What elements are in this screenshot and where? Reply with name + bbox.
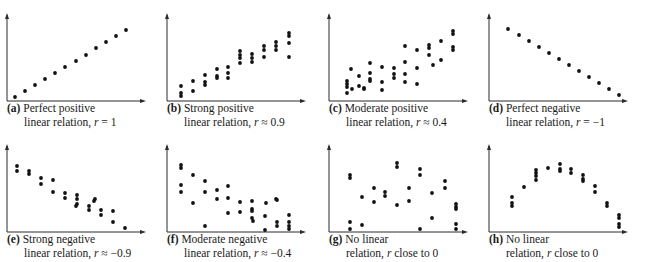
data-point xyxy=(567,63,571,67)
data-point xyxy=(203,190,207,194)
data-point xyxy=(427,53,431,57)
data-point xyxy=(593,184,597,188)
data-point xyxy=(569,171,573,175)
data-point xyxy=(593,190,597,194)
data-point xyxy=(357,84,361,88)
data-point xyxy=(368,79,372,83)
data-point xyxy=(395,203,399,207)
axes xyxy=(7,15,143,101)
data-point xyxy=(251,219,255,223)
data-point xyxy=(191,89,195,93)
data-point xyxy=(250,199,254,203)
data-point xyxy=(558,162,562,166)
scatter-plot xyxy=(322,131,482,235)
data-point xyxy=(383,194,387,198)
data-point xyxy=(275,220,279,224)
caption-line-1: Moderate negative xyxy=(181,233,267,245)
data-point xyxy=(350,87,354,91)
data-point xyxy=(275,198,279,202)
panel-caption: (d) Perfect negativelinear relation, r =… xyxy=(489,102,605,129)
y-axis-arrow-icon xyxy=(327,144,331,150)
data-point xyxy=(454,207,458,211)
data-point xyxy=(179,84,183,88)
data-point xyxy=(203,179,207,183)
y-axis-arrow-icon xyxy=(5,13,9,19)
data-point xyxy=(587,75,591,79)
data-point xyxy=(238,56,242,60)
panel-label: (d) xyxy=(489,102,503,114)
data-point xyxy=(287,220,291,224)
panel-f: (f) Moderate negativelinear relation, r … xyxy=(160,131,320,262)
caption-line-1: Perfect positive xyxy=(23,102,95,114)
data-point xyxy=(238,61,242,65)
data-point xyxy=(226,65,230,69)
data-point xyxy=(287,227,291,231)
data-point xyxy=(104,40,108,44)
data-point xyxy=(275,224,279,228)
data-point xyxy=(250,52,254,56)
data-point xyxy=(250,209,254,213)
axes xyxy=(329,15,465,101)
axes xyxy=(167,146,303,232)
data-point xyxy=(39,176,43,180)
caption-line-2: relation, r close to 0 xyxy=(329,247,438,261)
data-point xyxy=(15,164,19,168)
data-point xyxy=(380,80,384,84)
panel-caption: (g) No linearrelation, r close to 0 xyxy=(329,233,438,260)
data-point xyxy=(124,28,128,32)
r-value: close to 0 xyxy=(551,247,598,259)
data-point xyxy=(74,59,78,63)
data-point xyxy=(215,76,219,80)
caption-text: linear relation, xyxy=(184,116,254,128)
data-point xyxy=(191,79,195,83)
y-axis-arrow-icon xyxy=(165,13,169,19)
data-point xyxy=(380,65,384,69)
panel-label: (f) xyxy=(167,233,179,245)
caption-line-2: linear relation, r ≈ 0.9 xyxy=(167,116,285,130)
x-axis-arrow-icon xyxy=(622,99,628,103)
caption-text: linear relation, xyxy=(184,247,254,259)
r-value: close to 0 xyxy=(391,247,438,259)
data-point xyxy=(87,204,91,208)
data-point xyxy=(407,199,411,203)
data-point xyxy=(263,214,267,218)
scatter-plot xyxy=(482,131,642,235)
x-axis-arrow-icon xyxy=(462,230,468,234)
panel-caption: (b) Strong positivelinear relation, r ≈ … xyxy=(167,102,285,129)
panel-caption: (a) Perfect positivelinear relation, r =… xyxy=(7,102,116,129)
data-point xyxy=(75,197,79,201)
data-point xyxy=(607,87,611,91)
data-point xyxy=(94,46,98,50)
caption-line-1: No linear xyxy=(506,233,549,245)
x-axis-arrow-icon xyxy=(300,230,306,234)
data-point xyxy=(439,39,443,43)
data-point xyxy=(226,211,230,215)
data-point xyxy=(39,182,43,186)
data-point xyxy=(179,183,183,187)
data-point xyxy=(605,204,609,208)
panel-label: (g) xyxy=(329,233,342,245)
data-point xyxy=(360,195,364,199)
r-value: ≈ −0.4 xyxy=(258,247,291,259)
caption-line-1: Moderate positive xyxy=(345,102,428,114)
data-point xyxy=(250,56,254,60)
data-point xyxy=(179,190,183,194)
data-point xyxy=(451,48,455,52)
y-axis-arrow-icon xyxy=(327,13,331,19)
x-axis-arrow-icon xyxy=(140,230,146,234)
data-point xyxy=(368,71,372,75)
data-point xyxy=(179,166,183,170)
axes xyxy=(167,15,303,101)
y-axis-arrow-icon xyxy=(165,144,169,150)
data-point xyxy=(74,204,78,208)
caption-text: linear relation, xyxy=(24,116,94,128)
r-value: ≈ 0.4 xyxy=(420,116,446,128)
data-point xyxy=(33,83,37,87)
data-point xyxy=(617,216,621,220)
data-point xyxy=(617,225,621,229)
panel-d: (d) Perfect negativelinear relation, r =… xyxy=(482,0,642,131)
data-point xyxy=(597,81,601,85)
data-point xyxy=(581,179,585,183)
r-value: = −1 xyxy=(580,116,604,128)
caption-line-2: linear relation, r = −1 xyxy=(489,116,605,130)
